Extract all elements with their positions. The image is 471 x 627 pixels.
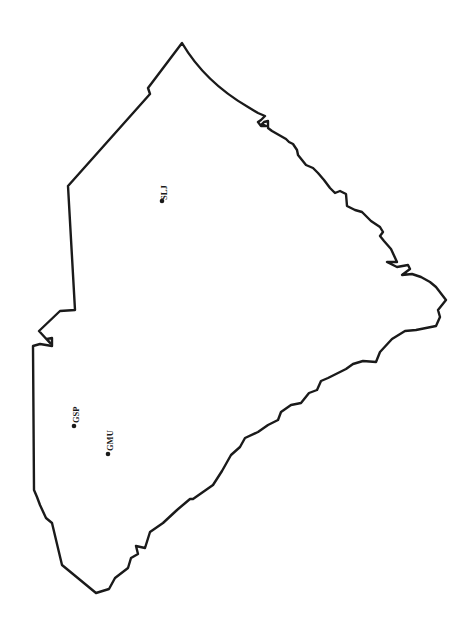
station-gmu: GMU bbox=[105, 430, 115, 456]
station-slj: SLJ bbox=[159, 185, 169, 204]
state-boundary bbox=[33, 43, 446, 593]
station-marker-icon bbox=[106, 452, 111, 457]
station-label: GMU bbox=[105, 430, 115, 451]
station-label: GSP bbox=[71, 406, 81, 423]
station-marker-icon bbox=[72, 424, 77, 429]
station-label: SLJ bbox=[159, 185, 169, 200]
station-gsp: GSP bbox=[71, 406, 81, 428]
map-canvas: SLJ GSP GMU bbox=[0, 0, 471, 627]
